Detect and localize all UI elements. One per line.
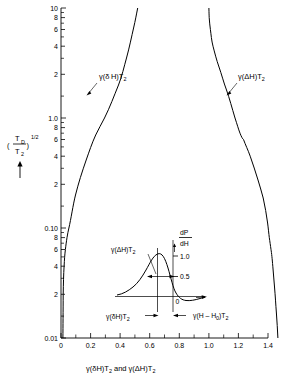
inset-tick-label-0: 0 bbox=[176, 298, 180, 305]
x-tick-label-0.6: 0.6 bbox=[145, 342, 155, 349]
left-curve-annotation-label: γ(δ H)T2 bbox=[99, 72, 126, 82]
x-tick-label-0: 0 bbox=[59, 342, 63, 349]
y-tick-label-0.4: 4 bbox=[54, 153, 58, 160]
x-tick-label-1.2: 1.2 bbox=[234, 342, 244, 349]
y-tick-label-0.8: 8 bbox=[54, 124, 58, 131]
y-tick-label-0.2: 2 bbox=[54, 181, 58, 188]
chart-figure: 10 8 6 4 2 1.0 8 6 4 2 0.10 8 6 4 2 0.01… bbox=[0, 0, 307, 378]
y-tick-label-1.0: 1.0 bbox=[48, 115, 58, 122]
x-tick-label-0.4: 0.4 bbox=[115, 342, 125, 349]
y-tick-label-2: 2 bbox=[54, 71, 58, 78]
x-tick-label-0.2: 0.2 bbox=[86, 342, 96, 349]
inset-y-axis-numerator: dP bbox=[180, 229, 189, 236]
x-tick-label-1.0: 1.0 bbox=[204, 342, 214, 349]
chart-svg: 10 8 6 4 2 1.0 8 6 4 2 0.10 8 6 4 2 0.01… bbox=[0, 0, 307, 378]
y-tick-label-8: 8 bbox=[54, 14, 58, 21]
y-tick-label-10: 10 bbox=[50, 5, 58, 12]
y-axis-title-exponent: 1/2 bbox=[31, 134, 39, 140]
y-axis-title-denominator: T bbox=[15, 147, 20, 156]
x-tick-label-0.8: 0.8 bbox=[174, 342, 184, 349]
y-tick-label-0.10: 0.10 bbox=[44, 225, 58, 232]
y-tick-label-0.04: 4 bbox=[54, 263, 58, 270]
inset-tick-label-0.5: 0.5 bbox=[180, 273, 190, 280]
x-axis-title-text: γ(δH)T2 and γ(ΔH)T2 bbox=[86, 364, 155, 374]
y-tick-label-0.6: 6 bbox=[54, 136, 58, 143]
y-tick-label-0.06: 6 bbox=[54, 246, 58, 253]
y-tick-label-6: 6 bbox=[54, 26, 58, 33]
x-tick-label-1.4: 1.4 bbox=[263, 342, 273, 349]
y-tick-label-0.08: 8 bbox=[54, 234, 58, 241]
x-axis-title: γ(δH)T2 and γ(ΔH)T2 bbox=[86, 364, 155, 374]
y-tick-label-0.01: 0.01 bbox=[44, 335, 58, 342]
y-axis-title-denominator-sub: 2 bbox=[21, 151, 24, 157]
y-axis-title-numerator: T bbox=[15, 134, 20, 143]
inset-tick-label-1.0: 1.0 bbox=[180, 253, 190, 260]
y-tick-label-0.02: 2 bbox=[54, 291, 58, 298]
inset-y-axis-denominator: dH bbox=[180, 240, 189, 247]
right-curve-annotation-label: γ(ΔH)T2 bbox=[238, 72, 265, 82]
y-tick-label-4: 4 bbox=[54, 43, 58, 50]
